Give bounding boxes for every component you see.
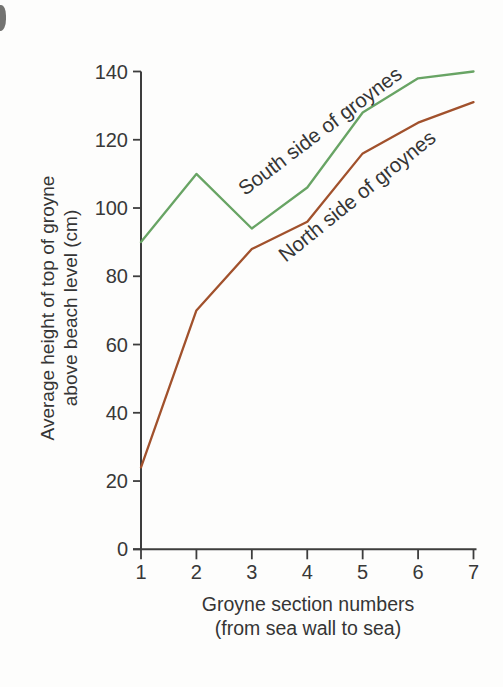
x-tick-label: 2	[191, 561, 202, 583]
y-axis-title-line2: above beach level (cm)	[59, 176, 82, 441]
y-axis-title-line1: Average height of top of groyne	[36, 176, 59, 441]
x-tick-label: 4	[302, 561, 313, 583]
x-tick-label: 3	[246, 561, 257, 583]
x-axis-title-line2: (from sea wall to sea)	[202, 616, 414, 640]
y-tick-label: 80	[106, 265, 128, 287]
x-tick-label: 6	[413, 561, 424, 583]
y-axis-title: Average height of top of groyne above be…	[36, 176, 82, 441]
y-tick-label: 60	[106, 334, 128, 356]
y-tick-label: 120	[95, 129, 128, 151]
y-tick-label: 140	[95, 61, 128, 83]
y-tick-label: 20	[106, 470, 128, 492]
x-axis-title-line1: Groyne section numbers	[202, 592, 414, 616]
x-tick-label: 5	[357, 561, 368, 583]
chart-figure: 0204060801001201401234567 Average height…	[0, 0, 503, 687]
y-tick-label: 100	[95, 197, 128, 219]
x-axis-title: Groyne section numbers (from sea wall to…	[202, 592, 414, 640]
x-tick-label: 1	[135, 561, 146, 583]
y-tick-label: 40	[106, 402, 128, 424]
x-tick-label: 7	[468, 561, 479, 583]
y-tick-label: 0	[117, 538, 128, 560]
